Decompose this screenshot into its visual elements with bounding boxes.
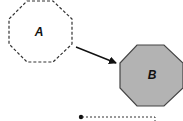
node-a-label: A	[34, 25, 44, 39]
node-b: B	[120, 45, 183, 106]
diagram-canvas: A B	[0, 0, 183, 121]
node-a: A	[9, 1, 72, 62]
edge-a-to-b	[76, 47, 116, 63]
node-b-label: B	[148, 68, 157, 82]
dashed-connector	[79, 115, 155, 121]
connector-line	[82, 117, 155, 121]
